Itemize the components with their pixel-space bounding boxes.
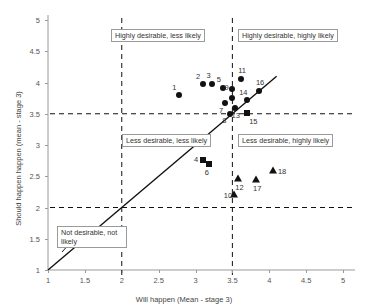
data-point-label: 15 — [249, 117, 257, 126]
x-tick-mark — [232, 270, 233, 273]
data-point-label: 1 — [172, 83, 176, 92]
y-tick-mark — [45, 83, 48, 84]
quadrant-label-lower-left: Less desirable, less likely — [122, 134, 211, 147]
y-tick-mark — [45, 176, 48, 177]
circle-marker-icon — [227, 111, 233, 117]
y-tick-label: 1 — [18, 266, 40, 275]
circle-marker-icon — [238, 76, 244, 82]
data-point-label: 8 — [222, 116, 226, 125]
quadrant-label-lower-right: Less desirable, highly likely — [238, 134, 333, 147]
circle-marker-icon — [229, 95, 235, 101]
x-tick-mark — [196, 270, 197, 273]
y-tick-mark — [45, 208, 48, 209]
x-tick-mark — [85, 270, 86, 273]
data-point-label: 7 — [219, 106, 223, 115]
data-point-label: 11 — [238, 66, 246, 75]
y-tick-mark — [45, 114, 48, 115]
x-tick-mark — [122, 270, 123, 273]
data-point-label: 16 — [256, 78, 264, 87]
data-point-label: 5 — [217, 75, 221, 84]
x-tick-label: 5 — [341, 276, 345, 285]
data-point-label: 3 — [206, 71, 210, 80]
data-point-label: 14 — [239, 88, 247, 97]
x-tick-mark — [343, 270, 344, 273]
circle-marker-icon — [200, 81, 206, 87]
y-tick-mark — [45, 51, 48, 52]
x-tick-label: 4 — [267, 276, 271, 285]
data-point-label: 2 — [196, 72, 200, 81]
y-tick-label: 4.5 — [18, 47, 40, 56]
data-point-label: 17 — [253, 184, 261, 193]
y-tick-mark — [45, 20, 48, 21]
x-tick-mark — [159, 270, 160, 273]
data-point-label: 18 — [278, 167, 286, 176]
x-tick-label: 1 — [46, 276, 50, 285]
x-axis-title: Will happen (Mean - stage 3) — [0, 295, 368, 304]
x-tick-label: 1.5 — [80, 276, 90, 285]
circle-marker-icon — [244, 97, 250, 103]
triangle-marker-icon — [269, 167, 277, 174]
circle-marker-icon — [256, 88, 262, 94]
quadrant-label-bottom-left: Not desirable, not likely — [57, 226, 127, 248]
square-marker-icon — [244, 110, 250, 116]
x-tick-mark — [306, 270, 307, 273]
square-marker-icon — [206, 161, 212, 167]
x-tick-label: 3.5 — [227, 276, 237, 285]
y-tick-mark — [45, 270, 48, 271]
y-tick-mark — [45, 145, 48, 146]
data-point-label: 9 — [224, 83, 228, 92]
x-tick-mark — [48, 270, 49, 273]
x-tick-label: 4.5 — [301, 276, 311, 285]
x-tick-mark — [269, 270, 270, 273]
scatter-plot: 11.522.533.544.5511.522.533.544.55 12359… — [0, 0, 368, 307]
data-point-label: 10 — [224, 191, 232, 200]
quadrant-label-upper-right: Highly desirable, highly likely — [238, 29, 338, 42]
y-tick-mark — [45, 239, 48, 240]
plot-lines-layer — [0, 0, 368, 307]
circle-marker-icon — [229, 86, 235, 92]
triangle-marker-icon — [234, 174, 242, 181]
y-tick-label: 5 — [18, 16, 40, 25]
circle-marker-icon — [176, 92, 182, 98]
circle-marker-icon — [209, 81, 215, 87]
y-axis-title: Should happen happen (mean - stage 3) — [14, 78, 23, 238]
x-tick-label: 2 — [120, 276, 124, 285]
x-tick-label: 2.5 — [153, 276, 163, 285]
data-point-label: 4 — [194, 155, 198, 164]
quadrant-label-upper-left: Highly desirable, less likely — [111, 29, 205, 42]
data-point-label: 6 — [205, 168, 209, 177]
triangle-marker-icon — [252, 176, 260, 183]
x-tick-label: 3 — [193, 276, 197, 285]
